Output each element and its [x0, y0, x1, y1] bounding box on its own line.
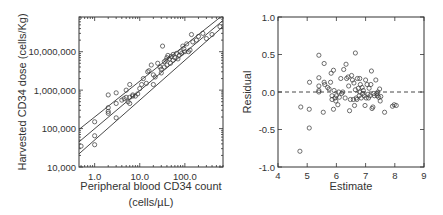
- y-tick-label: -1.0: [259, 162, 275, 173]
- data-point: [299, 105, 303, 109]
- data-point: [317, 84, 321, 88]
- y-tick-label: 1.0: [262, 12, 275, 23]
- data-point: [349, 73, 353, 77]
- x-tick-label: 8: [392, 170, 397, 181]
- x-axis-units: (cells/µL): [129, 196, 174, 208]
- x-tick-label: 5: [305, 170, 310, 181]
- data-point: [347, 84, 351, 88]
- data-point: [128, 82, 132, 86]
- lower-bound-line: [79, 27, 223, 154]
- data-point: [352, 103, 356, 107]
- y-tick-label: -0.5: [259, 124, 275, 135]
- plot-frame: [79, 17, 223, 167]
- data-point: [339, 76, 343, 80]
- figure: 1.010.0100.010,000100,0001,000,00010,000…: [0, 0, 443, 215]
- data-point: [93, 134, 97, 138]
- data-point: [378, 99, 382, 103]
- data-point: [364, 78, 368, 82]
- y-tick-label: 1,000,000: [34, 85, 76, 96]
- data-point: [331, 107, 335, 111]
- y-tick-label: 0.5: [262, 49, 275, 60]
- data-point: [298, 149, 302, 153]
- data-point: [322, 61, 326, 65]
- data-point: [218, 25, 222, 29]
- data-point: [151, 82, 155, 86]
- data-point: [307, 126, 311, 130]
- data-point: [342, 67, 346, 71]
- data-point: [189, 32, 193, 36]
- data-point: [138, 86, 142, 90]
- y-axis-label: Harvested CD34 dose (cells/Kg): [16, 13, 28, 170]
- data-point: [93, 143, 97, 147]
- data-point: [336, 103, 340, 107]
- data-point: [317, 53, 321, 57]
- data-point: [201, 31, 205, 35]
- y-axis-label: Residual: [241, 71, 253, 114]
- x-axis-label: Estimate: [330, 180, 373, 192]
- data-point: [140, 82, 144, 86]
- data-point: [328, 80, 332, 84]
- data-point: [114, 91, 118, 95]
- data-point: [374, 78, 378, 82]
- data-point: [307, 80, 311, 84]
- data-point: [160, 44, 164, 48]
- y-tick-label: 0.0: [262, 87, 275, 98]
- regression-fit-line: [79, 20, 223, 141]
- data-point: [114, 116, 118, 120]
- data-point: [363, 103, 367, 107]
- data-point: [204, 36, 208, 40]
- data-point: [147, 69, 151, 73]
- data-point: [344, 62, 348, 66]
- data-point: [93, 120, 97, 124]
- log-scatter-plot: 1.010.0100.010,000100,0001,000,00010,000…: [16, 13, 223, 208]
- data-point: [317, 76, 321, 80]
- data-point: [114, 101, 118, 105]
- data-point: [371, 105, 375, 109]
- y-tick-label: 10,000,000: [28, 46, 76, 57]
- data-point: [382, 110, 386, 114]
- x-tick-label: 4: [275, 170, 280, 181]
- data-point: [369, 69, 373, 73]
- data-point: [343, 96, 347, 100]
- data-point: [347, 109, 351, 113]
- data-point: [353, 51, 357, 55]
- y-tick-label: 10,000: [47, 162, 76, 173]
- residual-plot: 4567891.00.50.0-0.5-1.0EstimateResidual: [241, 12, 427, 193]
- x-tick-label: 9: [421, 170, 426, 181]
- data-point: [79, 144, 83, 148]
- data-point: [146, 70, 150, 74]
- data-point: [106, 93, 110, 97]
- data-point: [331, 68, 335, 72]
- x-axis-label: Peripheral blood CD34 count: [80, 180, 221, 192]
- data-point: [149, 63, 153, 67]
- data-point: [321, 110, 325, 114]
- data-point: [307, 107, 311, 111]
- y-tick-label: 100,000: [42, 123, 76, 134]
